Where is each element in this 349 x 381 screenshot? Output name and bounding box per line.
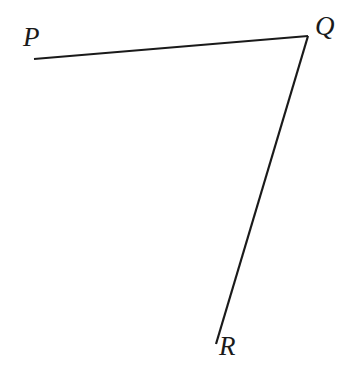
vertex-label-p: P — [23, 24, 40, 51]
vertex-label-r: R — [219, 333, 236, 360]
vertex-label-q: Q — [315, 13, 335, 40]
angle-figure-svg — [0, 0, 349, 381]
geometry-diagram: P Q R — [0, 0, 349, 381]
